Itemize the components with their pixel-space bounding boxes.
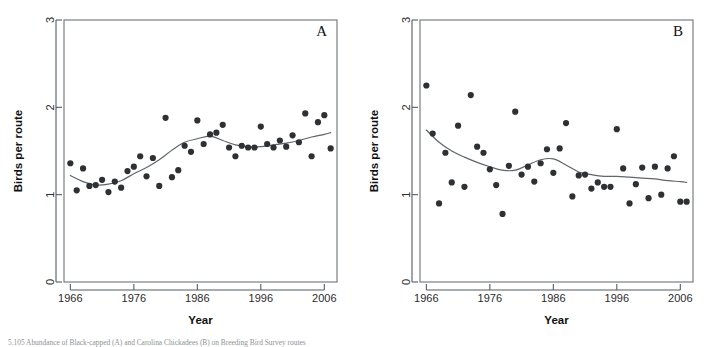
figure-caption-text: 5.105 Abundance of Black-capped (A) and … — [0, 338, 712, 347]
data-point — [182, 143, 188, 149]
data-point — [124, 168, 130, 174]
x-axis-title: Year — [188, 314, 213, 326]
x-tick-label-1986: 1986 — [185, 292, 209, 304]
data-series-0 — [423, 82, 690, 217]
data-point — [277, 137, 283, 143]
data-point — [194, 117, 200, 123]
figure-container: 012319661976198619962006YearBirds per ro… — [0, 0, 712, 347]
data-point — [614, 126, 620, 132]
y-tick-label-2: 2 — [44, 104, 56, 110]
data-point — [296, 139, 302, 145]
y-tick-label-1: 1 — [44, 192, 56, 198]
data-point — [162, 115, 168, 121]
plot-frame — [420, 20, 693, 282]
y-tick-label-1: 1 — [400, 192, 412, 198]
chart-svg-a: 012319661976198619962006YearBirds per ro… — [0, 0, 356, 330]
x-tick-label-1986: 1986 — [541, 292, 565, 304]
data-point — [150, 155, 156, 161]
data-point — [220, 122, 226, 128]
data-point — [499, 211, 505, 217]
data-point — [258, 123, 264, 129]
x-tick-label-1966: 1966 — [58, 292, 82, 304]
data-point — [626, 200, 632, 206]
data-point — [544, 146, 550, 152]
data-point — [270, 144, 276, 150]
data-point — [480, 150, 486, 156]
data-point — [315, 119, 321, 125]
data-point — [423, 82, 429, 88]
plot-frame — [64, 20, 337, 282]
data-point — [506, 163, 512, 169]
data-point — [156, 183, 162, 189]
data-point — [550, 170, 556, 176]
data-point — [538, 160, 544, 166]
data-point — [131, 164, 137, 170]
data-point — [601, 184, 607, 190]
data-point — [99, 177, 105, 183]
data-point — [169, 174, 175, 180]
data-point — [118, 185, 124, 191]
data-point — [620, 165, 626, 171]
data-point — [289, 132, 295, 138]
data-point — [474, 144, 480, 150]
x-tick-label-1976: 1976 — [122, 292, 146, 304]
data-point — [74, 187, 80, 193]
panel-label-b: B — [673, 23, 683, 39]
x-tick-label-1976: 1976 — [478, 292, 502, 304]
data-point — [658, 192, 664, 198]
panel-label-a: A — [316, 23, 327, 39]
data-point — [595, 179, 601, 185]
data-point — [576, 172, 582, 178]
trend-line — [70, 133, 330, 186]
y-tick-label-0: 0 — [400, 279, 412, 285]
y-tick-label-0: 0 — [44, 279, 56, 285]
chart-panel-b: 012319661976198619962006YearBirds per ro… — [356, 0, 712, 330]
data-point — [518, 171, 524, 177]
data-point — [639, 164, 645, 170]
data-point — [302, 110, 308, 116]
data-point — [321, 112, 327, 118]
data-point — [80, 165, 86, 171]
data-point — [645, 195, 651, 201]
y-axis-title: Birds per route — [12, 110, 24, 192]
data-point — [309, 153, 315, 159]
data-point — [239, 143, 245, 149]
data-point — [328, 145, 334, 151]
x-tick-label-2006: 2006 — [668, 292, 692, 304]
data-point — [232, 153, 238, 159]
y-tick-label-3: 3 — [44, 17, 56, 23]
data-point — [436, 200, 442, 206]
data-point — [105, 189, 111, 195]
data-point — [455, 123, 461, 129]
data-series-0 — [67, 110, 334, 195]
chart-svg-b: 012319661976198619962006YearBirds per ro… — [356, 0, 712, 330]
data-point — [582, 171, 588, 177]
data-point — [671, 153, 677, 159]
data-point — [175, 167, 181, 173]
data-point — [557, 145, 563, 151]
data-point — [283, 144, 289, 150]
data-point — [449, 179, 455, 185]
figure-caption: 5.105 Abundance of Black-capped (A) and … — [0, 338, 712, 347]
data-point — [487, 166, 493, 172]
data-point — [563, 120, 569, 126]
data-point — [531, 178, 537, 184]
data-point — [67, 160, 73, 166]
data-point — [677, 199, 683, 205]
data-point — [430, 130, 436, 136]
data-point — [143, 173, 149, 179]
data-point — [468, 92, 474, 98]
data-point — [665, 165, 671, 171]
data-point — [251, 144, 257, 150]
data-point — [245, 144, 251, 150]
data-point — [652, 164, 658, 170]
x-axis-title: Year — [544, 314, 569, 326]
data-point — [588, 185, 594, 191]
data-point — [442, 150, 448, 156]
data-point — [493, 182, 499, 188]
y-tick-label-3: 3 — [400, 17, 412, 23]
y-axis-title: Birds per route — [368, 110, 380, 192]
x-tick-label-1996: 1996 — [249, 292, 273, 304]
y-tick-label-2: 2 — [400, 104, 412, 110]
x-tick-label-1966: 1966 — [414, 292, 438, 304]
